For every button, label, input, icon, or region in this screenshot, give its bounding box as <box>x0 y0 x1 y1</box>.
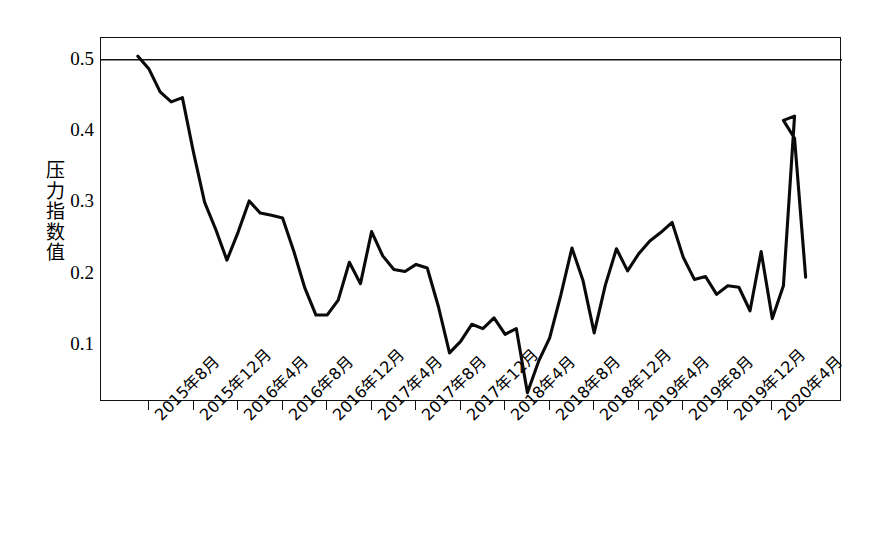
x-tick-label-text: 2015年8月 <box>148 408 165 425</box>
x-tick-label-text: 2016年4月 <box>237 408 254 425</box>
x-tick-label-text: 2015年12月 <box>193 408 210 425</box>
x-tick-label-text: 2019年12月 <box>727 408 744 425</box>
y-axis-tick-labels: 0.10.20.30.40.5 <box>38 0 94 536</box>
pressure-index-line <box>138 56 806 393</box>
x-tick-label-text: 2018年8月 <box>549 408 566 425</box>
x-tick-label-text: 2016年12月 <box>326 408 343 425</box>
series-line-chart <box>101 38 842 402</box>
x-tick-label-text: 2016年8月 <box>282 408 299 425</box>
x-tick-label-text: 2019年4月 <box>638 408 655 425</box>
x-tick-label-text: 2018年12月 <box>593 408 610 425</box>
y-tick-label-0.2: 0.2 <box>70 262 94 284</box>
x-tick-label-text: 2019年8月 <box>682 408 699 425</box>
y-tick-label-0.5: 0.5 <box>70 48 94 70</box>
y-tick-label-0.3: 0.3 <box>70 190 94 212</box>
y-tick-label-0.4: 0.4 <box>70 119 94 141</box>
x-tick-label-text: 2018年4月 <box>504 408 521 425</box>
x-tick-label-text: 2020年4月 <box>771 408 788 425</box>
plot-area <box>100 37 841 401</box>
x-tick-label-text: 2017年4月 <box>371 408 388 425</box>
x-tick-label-text: 2017年8月 <box>415 408 432 425</box>
chart-root: 压 力 指 数 值 0.10.20.30.40.5 2015年8月2015年12… <box>0 0 890 536</box>
x-tick-label-text: 2017年12月 <box>460 408 477 425</box>
y-tick-label-0.1: 0.1 <box>70 333 94 355</box>
